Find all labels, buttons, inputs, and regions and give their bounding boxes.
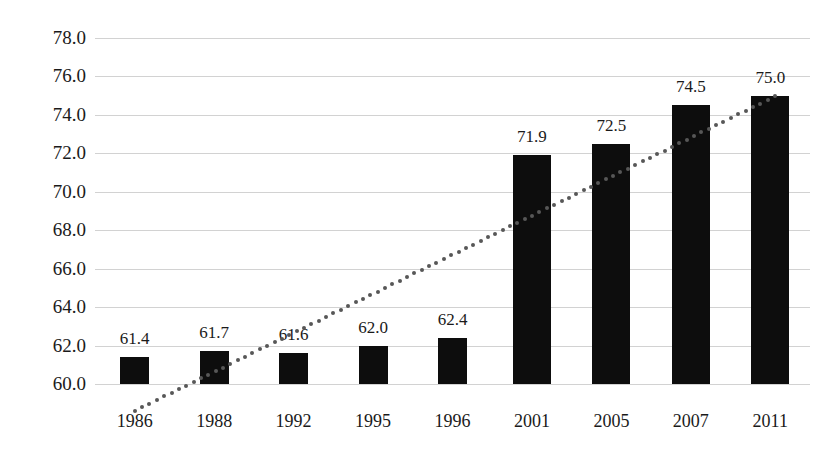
bar-value-label: 75.0: [730, 69, 810, 86]
bar: [200, 351, 229, 384]
y-axis-tick-label: 66.0: [18, 259, 86, 278]
y-axis-tick-label: 62.0: [18, 336, 86, 355]
trendline-dot: [155, 398, 159, 402]
trendline-dot: [177, 387, 181, 391]
bar: [438, 338, 467, 384]
gridline: [95, 38, 810, 39]
x-axis-tick-label: 1992: [249, 412, 339, 430]
y-axis-tick-label: 60.0: [18, 374, 86, 393]
y-axis-tick-label: 74.0: [18, 105, 86, 124]
trendline-dot: [170, 391, 174, 395]
x-axis-tick-label: 1988: [169, 412, 259, 430]
y-axis-tick-label: 68.0: [18, 220, 86, 239]
bar: [359, 346, 388, 384]
trendline-dot: [147, 402, 151, 406]
bar: [279, 353, 308, 384]
x-axis-tick-label: 2011: [725, 412, 815, 430]
bar-chart: 60.062.064.066.068.070.072.074.076.078.0…: [0, 0, 818, 459]
y-axis-tick-label: 78.0: [18, 28, 86, 47]
y-axis-tick-label: 70.0: [18, 182, 86, 201]
x-axis-tick-label: 2005: [566, 412, 656, 430]
y-axis-tick-label: 64.0: [18, 297, 86, 316]
bar: [751, 96, 789, 384]
bar-value-label: 61.7: [174, 324, 254, 341]
gridline: [95, 384, 810, 385]
bar-value-label: 74.5: [651, 78, 731, 95]
bar-value-label: 62.0: [333, 319, 413, 336]
bar-value-label: 61.6: [254, 326, 334, 343]
bar: [120, 357, 149, 384]
bar-value-label: 61.4: [95, 330, 175, 347]
x-axis-tick-label: 1995: [328, 412, 418, 430]
bar: [672, 105, 710, 384]
x-axis-tick-label: 1986: [90, 412, 180, 430]
trendline-dot: [162, 394, 166, 398]
bar-value-label: 72.5: [571, 117, 651, 134]
trendline-dot: [140, 405, 144, 409]
bar: [513, 155, 551, 384]
x-axis-tick-label: 1996: [408, 412, 498, 430]
bar-value-label: 62.4: [413, 311, 493, 328]
y-axis-tick-label: 76.0: [18, 66, 86, 85]
bar: [592, 144, 630, 384]
bar-value-label: 71.9: [492, 128, 572, 145]
y-axis-tick-label: 72.0: [18, 143, 86, 162]
x-axis-tick-label: 2007: [646, 412, 736, 430]
x-axis-tick-label: 2001: [487, 412, 577, 430]
